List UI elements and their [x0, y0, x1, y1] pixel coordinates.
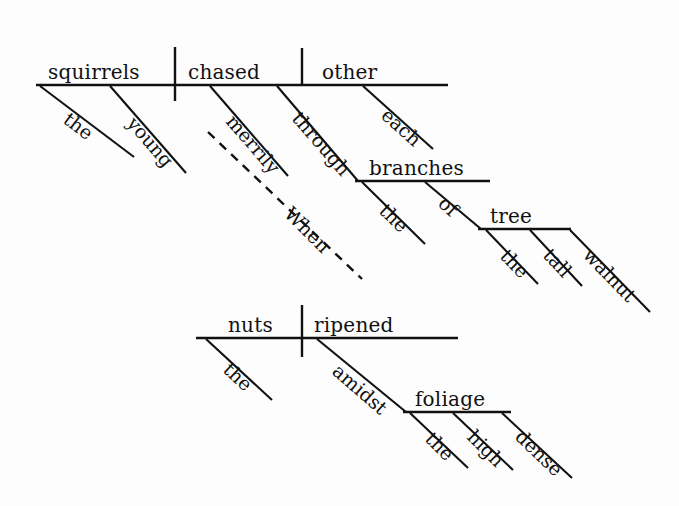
word-main-verb: chased [188, 60, 260, 84]
word-prep2-adjective-1: tall [539, 244, 576, 282]
word-verb-adverb: merrily [222, 110, 285, 178]
word-connector: When [280, 202, 335, 257]
word-prep1-object: branches [369, 156, 464, 180]
word-prep3-adjective-1: high [463, 425, 509, 471]
word-prep3-object: foliage [415, 387, 485, 411]
word-sub-subject-article: the [219, 358, 257, 395]
word-sub-subject: nuts [228, 313, 273, 337]
word-preposition-3: amidst [328, 359, 392, 418]
word-subject-adjective: young [122, 111, 178, 171]
word-main-subject: squirrels [48, 60, 140, 84]
word-preposition-1: through [288, 107, 355, 180]
word-object-modifier: each [377, 104, 425, 151]
word-prep2-adjective-2: walnut [579, 243, 641, 306]
word-prep2-object: tree [490, 204, 532, 228]
sentence-diagram-canvas: squirrels chased other the young each me… [0, 0, 679, 506]
diagram-svg: squirrels chased other the young each me… [0, 0, 679, 506]
word-prep3-adjective-2: dense [511, 425, 567, 480]
word-prep2-object-article: the [496, 244, 533, 282]
word-prep3-object-article: the [421, 427, 459, 465]
word-subject-article: the [60, 108, 98, 144]
word-preposition-2: of [434, 192, 464, 222]
word-sub-verb: ripened [314, 313, 394, 337]
word-prep1-object-article: the [375, 199, 413, 236]
word-main-object: other [322, 60, 378, 84]
